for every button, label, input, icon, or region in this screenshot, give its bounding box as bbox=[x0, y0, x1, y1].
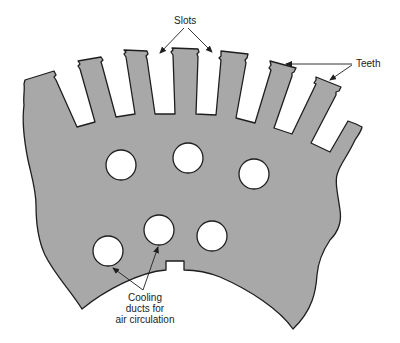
teeth-label: Teeth bbox=[356, 58, 380, 69]
diagram-svg: Slots Teeth Cooling ducts for air circul… bbox=[0, 0, 400, 343]
teeth-arrow-lower bbox=[330, 65, 352, 80]
cooling-label-line3: air circulation bbox=[116, 314, 175, 325]
cooling-duct-4 bbox=[93, 236, 123, 266]
lamination-body bbox=[23, 48, 362, 329]
cooling-duct-2 bbox=[173, 143, 203, 173]
cooling-label-line2: ducts for bbox=[126, 303, 165, 314]
cooling-duct-3 bbox=[239, 159, 269, 189]
cooling-label-line1: Cooling bbox=[128, 292, 162, 303]
cooling-duct-5 bbox=[144, 215, 174, 245]
cooling-duct-6 bbox=[197, 221, 227, 251]
stator-lamination-diagram: Slots Teeth Cooling ducts for air circul… bbox=[0, 0, 400, 343]
cooling-duct-1 bbox=[106, 150, 136, 180]
slots-label: Slots bbox=[174, 15, 196, 26]
